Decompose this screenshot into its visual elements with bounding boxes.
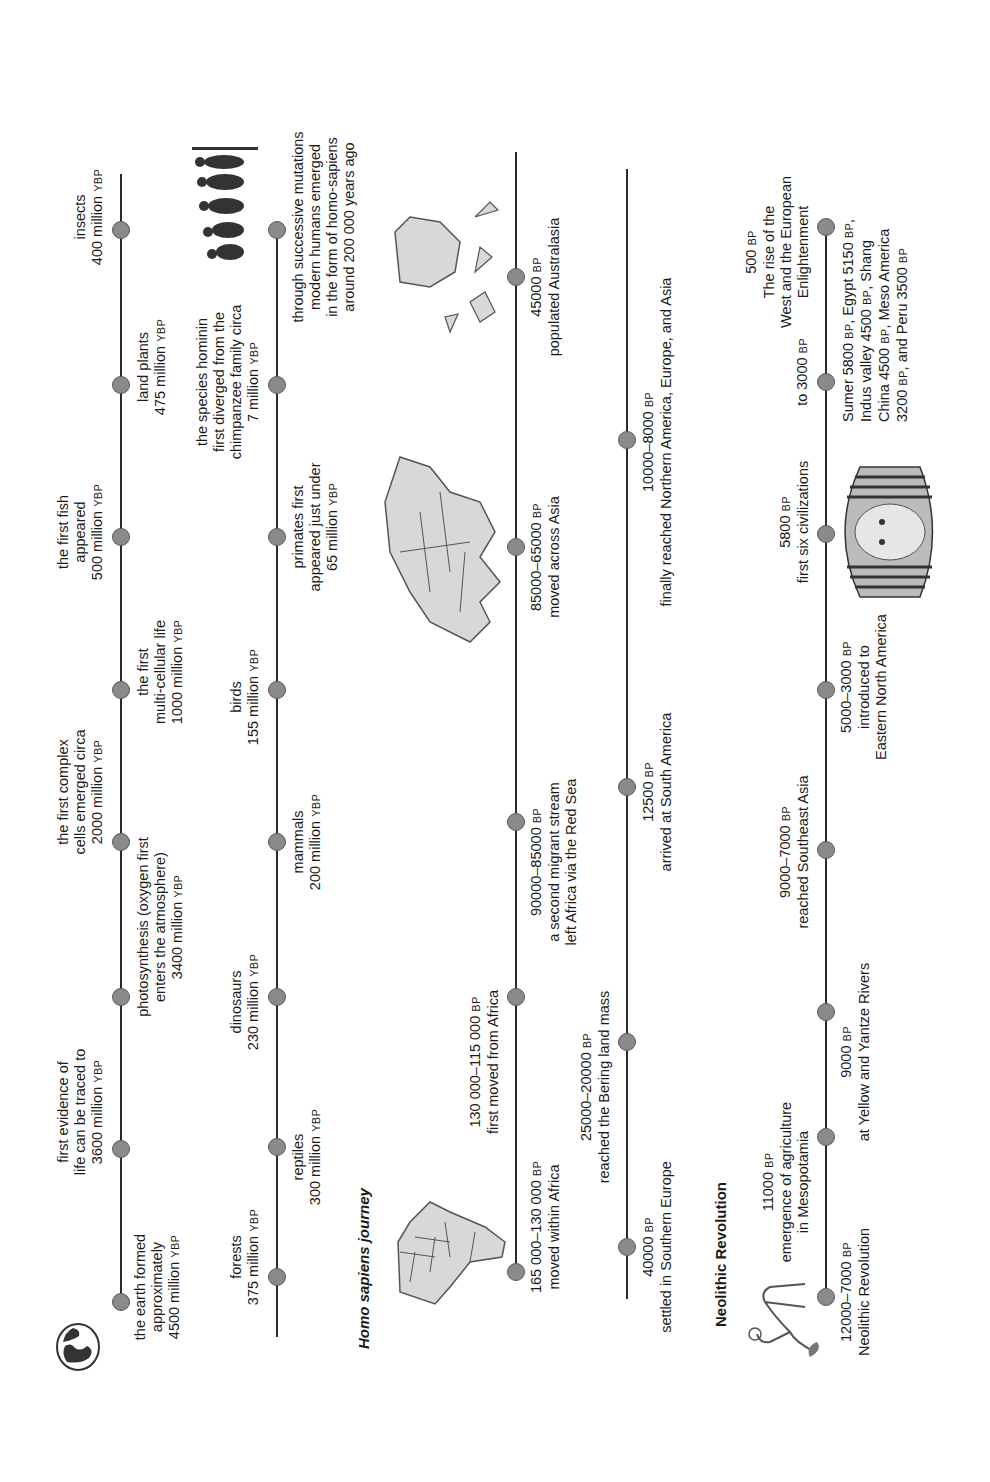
homo-sapiens-a-label-5: 45000 BPpopulated Australasia bbox=[528, 218, 563, 357]
homo-sapiens-a-dot-4 bbox=[507, 538, 525, 556]
homo-sapiens-a-dot-2 bbox=[507, 988, 525, 1006]
homo-sapiens-a-label-1: 165 000–130 000 BPmoved within Africa bbox=[528, 1161, 563, 1293]
homo-sapiens-b-dot-2 bbox=[618, 1033, 636, 1051]
timeline-2-dot-7 bbox=[268, 376, 286, 394]
australasia-map-icon bbox=[380, 192, 510, 342]
neolithic-label-6: 5800 BPfirst six civilizations bbox=[777, 461, 812, 583]
timeline-1-label-1: the earth formed approximately 4500 mill… bbox=[132, 1234, 184, 1340]
tutankhamun-mask-icon bbox=[840, 457, 940, 607]
timeline-2-label-3: dinosaurs 230 million YBP bbox=[228, 954, 263, 1050]
timeline-2-label-2: reptiles 300 million YBP bbox=[290, 1109, 325, 1205]
homo-sapiens-b-label-1: 40000 BPsettled in Southern Europe bbox=[640, 1161, 675, 1333]
timeline-2-dot-5 bbox=[268, 681, 286, 699]
timeline-1-label-5: the first multi-cellular life 1000 milli… bbox=[135, 620, 187, 724]
timeline-2-label-1: forests 375 million YBP bbox=[228, 1209, 263, 1305]
homo-sapiens-b-label-2: 25000–20000 BPreached the Bering land ma… bbox=[578, 991, 613, 1184]
neolithic-dot-7 bbox=[817, 373, 835, 391]
timeline-2-dot-4 bbox=[268, 833, 286, 851]
neolithic-dot-3 bbox=[817, 1003, 835, 1021]
timeline-1-line bbox=[120, 174, 122, 1302]
asia-map-icon bbox=[370, 452, 510, 652]
timeline-2-dot-8 bbox=[268, 221, 286, 239]
homo-sapiens-a-label-3: 90000–85000 BPa second migrant stream le… bbox=[528, 779, 580, 946]
timeline-2-dot-3 bbox=[268, 988, 286, 1006]
timeline-2-label-6: primates first appeared just under 65 mi… bbox=[290, 463, 342, 592]
timeline-1-label-3: photosynthesis (oxygen first enters the … bbox=[135, 837, 187, 1017]
homo-sapiens-a-dot-3 bbox=[507, 813, 525, 831]
neolithic-dot-6 bbox=[817, 525, 835, 543]
civilizations-note: Sumer 5800 BP, Egypt 5150 BP, Indus vall… bbox=[840, 219, 912, 422]
timeline-1-label-2: first evidence of life can be traced to … bbox=[55, 1049, 107, 1176]
neolithic-dot-5 bbox=[817, 681, 835, 699]
neolithic-farmer-drawing-icon bbox=[735, 1272, 825, 1362]
timeline-1-dot-6 bbox=[112, 528, 130, 546]
neolithic-dot-8 bbox=[817, 218, 835, 236]
globe-icon bbox=[55, 1322, 101, 1372]
homo-sapiens-b-dot-1 bbox=[618, 1238, 636, 1256]
homo-sapiens-b-dot-4 bbox=[618, 431, 636, 449]
homo-sapiens-row-a-line bbox=[515, 152, 517, 1272]
timeline-1-dot-4 bbox=[112, 833, 130, 851]
neolithic-dot-1 bbox=[817, 1288, 835, 1306]
neolithic-label-5: 5000–3000 BPintroduced to Eastern North … bbox=[838, 614, 890, 760]
timeline-1-dot-1 bbox=[112, 1293, 130, 1311]
homo-sapiens-b-label-3: 12500 BParrived at South America bbox=[640, 713, 675, 872]
neolithic-label-2: 11000 BPemergence of agriculture in Meso… bbox=[760, 1102, 812, 1262]
human-history-timeline-page: the earth formed approximately 4500 mill… bbox=[0, 0, 990, 1482]
homo-sapiens-title: Homo sapiens journey bbox=[355, 1188, 372, 1349]
timeline-1-label-7: land plants 475 million YBP bbox=[135, 319, 170, 415]
neolithic-dot-4 bbox=[817, 841, 835, 859]
africa-map-icon bbox=[390, 1192, 510, 1312]
neolithic-label-7: to 3000 BP bbox=[794, 338, 812, 406]
homo-sapiens-a-label-2: 130 000–115 000 BPfirst moved from Afric… bbox=[467, 990, 502, 1134]
neolithic-label-4: 9000–7000 BPreached Southeast Asia bbox=[777, 775, 812, 928]
timeline-1-label-8: insects 400 million YBP bbox=[72, 169, 107, 265]
human-evolution-silhouettes-icon bbox=[190, 142, 260, 262]
homo-sapiens-b-dot-3 bbox=[618, 778, 636, 796]
timeline-2-label-7: the species hominin first diverged from … bbox=[194, 305, 263, 460]
homo-sapiens-b-label-4: 10000–8000 BPfinally reached Northern Am… bbox=[640, 278, 675, 607]
neolithic-label-1: 12000–7000 BPNeolithic Revolution bbox=[838, 1228, 873, 1356]
homo-sapiens-a-label-4: 85000–65000 BPmoved across Asia bbox=[528, 496, 563, 618]
neolithic-label-8: 500 BPThe rise of the West and the Europ… bbox=[743, 176, 812, 328]
timeline-2-dot-6 bbox=[268, 528, 286, 546]
timeline-1-dot-7 bbox=[112, 376, 130, 394]
timeline-2-label-8-text: through successive mutations modern huma… bbox=[290, 131, 358, 322]
neolithic-label-3: 9000 BPat Yellow and Yantze Rivers bbox=[838, 963, 873, 1141]
timeline-1-label-6: the first fish appeared 500 million YBP bbox=[55, 484, 107, 580]
timeline-2-line bbox=[276, 230, 278, 1337]
timeline-1-dot-8 bbox=[112, 221, 130, 239]
timeline-1-dot-3 bbox=[112, 988, 130, 1006]
timeline-1-dot-2 bbox=[112, 1140, 130, 1158]
timeline-2-dot-2 bbox=[268, 1138, 286, 1156]
timeline-1-label-4: the first complex cells emerged circa 20… bbox=[55, 730, 107, 855]
neolithic-dot-2 bbox=[817, 1128, 835, 1146]
timeline-2-label-5: birds 155 million YBP bbox=[228, 649, 263, 745]
timeline-1-dot-5 bbox=[112, 681, 130, 699]
homo-sapiens-a-dot-5 bbox=[507, 268, 525, 286]
homo-sapiens-row-b-line bbox=[626, 169, 628, 1299]
timeline-2-label-4: mammals 200 million YBP bbox=[290, 794, 325, 890]
neolithic-title: Neolithic Revolution bbox=[712, 1182, 729, 1327]
homo-sapiens-a-dot-1 bbox=[507, 1263, 525, 1281]
timeline-2-dot-1 bbox=[268, 1268, 286, 1286]
